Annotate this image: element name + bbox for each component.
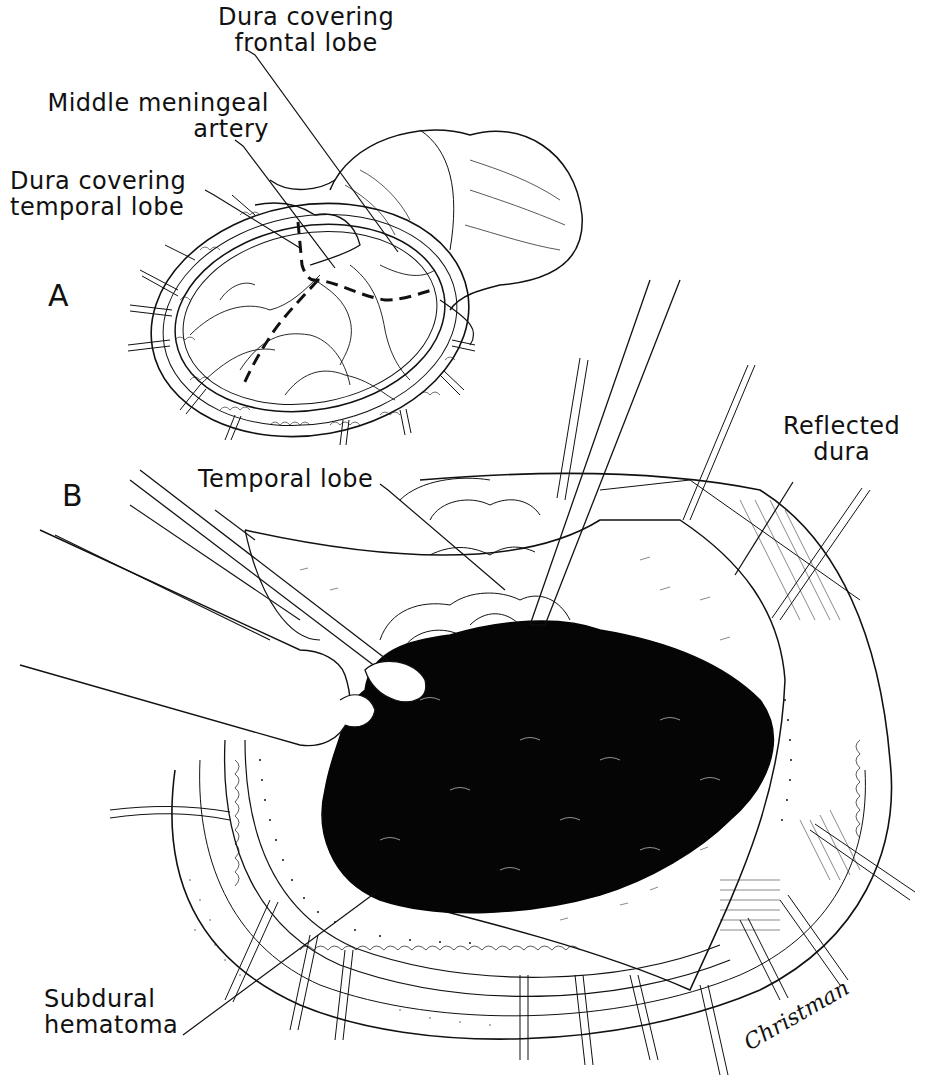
panel-b-drawing	[20, 280, 915, 1075]
label-dura-frontal-line1: Dura covering	[218, 4, 394, 30]
panel-label-b: B	[62, 478, 83, 513]
label-dura-temporal: Dura covering temporal lobe	[10, 168, 186, 220]
label-temporal-lobe: Temporal lobe	[198, 466, 373, 492]
label-middle-meningeal-line1: Middle meningeal	[34, 90, 269, 116]
label-subdural-hematoma-line2: hematoma	[44, 1012, 178, 1038]
illustration	[0, 0, 933, 1083]
panel-a-drawing	[128, 130, 582, 461]
label-middle-meningeal: Middle meningeal artery	[34, 90, 269, 142]
label-middle-meningeal-line2: artery	[34, 116, 269, 142]
panel-a-leaders	[205, 50, 398, 268]
label-reflected-dura: Reflected dura	[783, 413, 900, 465]
label-reflected-dura-line2: dura	[783, 439, 900, 465]
label-subdural-hematoma-line1: Subdural	[44, 986, 178, 1012]
label-dura-frontal-line2: frontal lobe	[218, 30, 394, 56]
label-dura-frontal: Dura covering frontal lobe	[218, 4, 394, 56]
label-dura-temporal-line1: Dura covering	[10, 168, 186, 194]
panel-label-a: A	[48, 278, 69, 313]
label-reflected-dura-line1: Reflected	[783, 413, 900, 439]
label-temporal-lobe-line1: Temporal lobe	[198, 466, 373, 492]
label-subdural-hematoma: Subdural hematoma	[44, 986, 178, 1038]
label-dura-temporal-line2: temporal lobe	[10, 194, 186, 220]
